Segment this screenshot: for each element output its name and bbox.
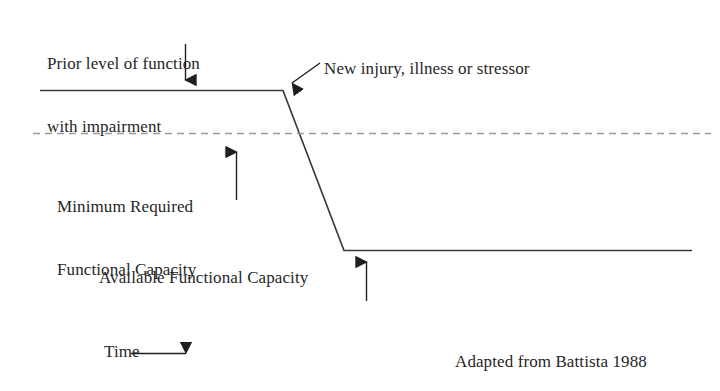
prior-level-line-1: Prior level of function <box>47 53 200 74</box>
minimum-required-functional-capacity-label: Minimum Required Functional Capacity <box>57 154 196 322</box>
minimum-required-line-1: Minimum Required <box>57 196 196 217</box>
prior-level-line-2: with impairment <box>47 116 200 137</box>
functional-capacity-diagram: Prior level of function with impairment … <box>0 0 720 391</box>
new-injury-label: New injury, illness or stressor <box>324 58 530 79</box>
time-axis-label: Time <box>104 341 140 362</box>
arrow-down-left-icon <box>292 63 320 83</box>
available-functional-capacity-label: Available Functional Capacity <box>99 267 308 288</box>
source-credit-label: Adapted from Battista 1988 <box>455 351 647 372</box>
